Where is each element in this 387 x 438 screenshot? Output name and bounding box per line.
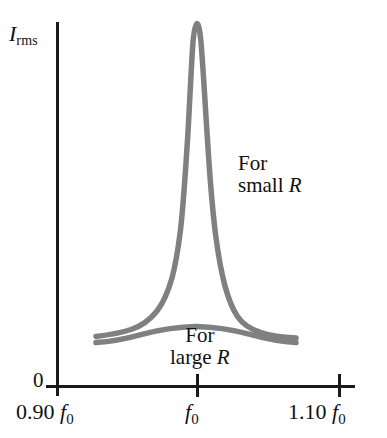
annotation-large-r-line2: large <box>170 345 217 369</box>
x-tick-label-left: 0.90 f0 <box>16 400 74 423</box>
annotation-small-r-line2: small <box>238 173 289 197</box>
x-tick-label-right: 1.10 f0 <box>288 400 346 423</box>
annotation-small-r: Forsmall R <box>238 152 302 196</box>
x-tick-label-right-value: 1.10 <box>288 399 332 424</box>
annotation-large-r-symbol: R <box>217 345 230 369</box>
annotation-small-r-line1: For <box>238 151 267 175</box>
y-axis-label: Irms <box>9 22 38 45</box>
x-tick-label-center: f0 <box>185 400 199 423</box>
annotation-large-r: Forlarge R <box>170 324 230 368</box>
y-axis-label-subscript: rms <box>16 33 38 48</box>
plot-canvas <box>0 0 387 438</box>
annotation-large-r-line1: For <box>185 323 214 347</box>
x-tick-label-center-subscript: 0 <box>191 411 199 427</box>
origin-label: 0 <box>33 369 44 391</box>
x-tick-label-left-value: 0.90 <box>16 399 60 424</box>
annotation-small-r-symbol: R <box>289 173 302 197</box>
resonance-figure: Irms 0 0.90 f0 f0 1.10 f0 Forsmall R For… <box>0 0 387 438</box>
x-tick-label-right-subscript: 0 <box>338 411 346 427</box>
x-tick-label-left-subscript: 0 <box>66 411 74 427</box>
